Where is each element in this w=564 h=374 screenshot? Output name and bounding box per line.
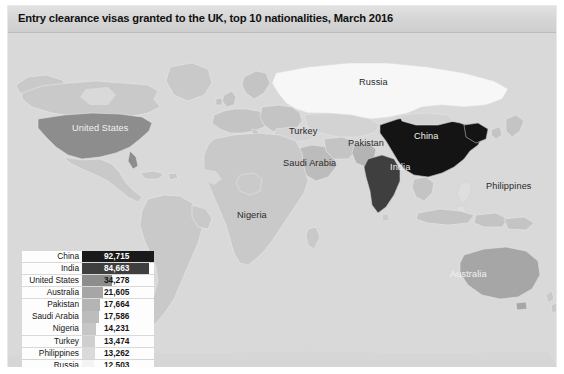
table-row: India 84,663 [22,263,154,274]
row-label-nigeria: Nigeria [22,323,82,334]
row-label-russia: Russia [22,360,82,367]
row-label-turkey: Turkey [22,336,82,347]
row-bar-zone: 84,663 [82,263,154,274]
row-bar-zone: 34,278 [82,275,154,286]
table-row: Nigeria 14,231 [22,323,154,334]
row-bar-australia [82,287,103,298]
map-label-united-states: United States [72,123,128,133]
row-bar-zone: 17,664 [82,299,154,310]
world-map: .land{fill:#c9c9c9;stroke:#e8e8e8;stroke… [8,33,556,367]
table-row: Turkey 13,474 [22,336,154,347]
row-label-pakistan: Pakistan [22,299,82,310]
row-value-china: 92,715 [104,251,129,262]
row-value-australia: 21,605 [104,287,129,298]
map-label-saudi-arabia: Saudi Arabia [283,158,336,168]
row-bar-russia [82,360,94,367]
row-value-pakistan: 17,664 [104,299,129,310]
map-label-pakistan: Pakistan [348,138,384,148]
row-value-india: 84,663 [104,263,129,274]
row-bar-zone: 21,605 [82,287,154,298]
table-row: China 92,715 [22,251,154,262]
row-bar-nigeria [82,323,96,334]
row-label-china: China [22,251,82,262]
row-value-philippines: 13,262 [104,348,129,359]
row-value-turkey: 13,474 [104,336,129,347]
row-bar-zone: 13,262 [82,348,154,359]
row-bar-saudi-arabia [82,311,99,322]
row-bar-zone: 92,715 [82,251,154,262]
row-value-saudi-arabia: 17,586 [104,311,129,322]
map-label-nigeria: Nigeria [237,210,267,220]
row-bar-zone: 17,586 [82,311,154,322]
rankings-table: China 92,715 India 84,663 United States … [22,251,154,367]
table-row: Saudi Arabia 17,586 [22,311,154,322]
table-row: Philippines 13,262 [22,348,154,359]
table-row: Pakistan 17,664 [22,299,154,310]
map-label-china: China [414,131,439,141]
row-bar-zone: 12,503 [82,360,154,367]
row-bar-turkey [82,336,95,347]
row-label-australia: Australia [22,287,82,298]
figure-panel: Entry clearance visas granted to the UK,… [7,5,557,367]
map-label-russia: Russia [359,77,388,87]
row-bar-philippines [82,348,95,359]
row-value-nigeria: 14,231 [104,323,129,334]
map-label-australia: Australia [450,269,487,279]
row-label-united-states: United States [22,275,82,286]
row-label-india: India [22,263,82,274]
chart-title-bar: Entry clearance visas granted to the UK,… [8,6,556,33]
map-label-philippines: Philippines [486,181,532,191]
row-value-russia: 12,503 [104,360,129,367]
row-value-united-states: 34,278 [104,275,129,286]
row-label-philippines: Philippines [22,348,82,359]
row-label-saudi-arabia: Saudi Arabia [22,311,82,322]
row-bar-zone: 14,231 [82,323,154,334]
page-title: Entry clearance visas granted to the UK,… [18,12,393,24]
row-bar-zone: 13,474 [82,336,154,347]
map-label-turkey: Turkey [289,126,317,136]
map-label-india: India [390,162,410,172]
table-row: Russia 12,503 [22,360,154,367]
table-row: Australia 21,605 [22,287,154,298]
row-bar-pakistan [82,299,100,310]
table-row: United States 34,278 [22,275,154,286]
